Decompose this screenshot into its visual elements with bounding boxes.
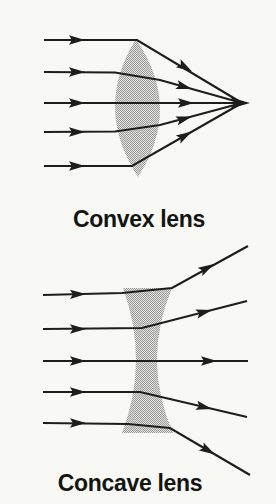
ray-arrowhead (175, 80, 193, 93)
ray-arrowhead (175, 112, 193, 125)
ray-arrowhead (195, 401, 213, 414)
convex-lens-body (115, 39, 160, 177)
convex-lens-caption: Convex lens (73, 206, 205, 232)
ray-arrowhead (199, 442, 217, 458)
figure-canvas: Convex lens Concave lens (0, 0, 276, 504)
convex-lens-diagram (44, 35, 250, 177)
concave-lens-diagram (43, 246, 250, 475)
ray-arrowhead (176, 127, 194, 143)
diagram-layers (43, 35, 250, 475)
lens-ray-figure: Convex lens Concave lens (0, 0, 276, 504)
light-ray (43, 246, 248, 295)
ray-arrowhead (195, 306, 213, 319)
ray-arrowhead (198, 260, 216, 276)
concave-lens-caption: Concave lens (58, 470, 203, 496)
